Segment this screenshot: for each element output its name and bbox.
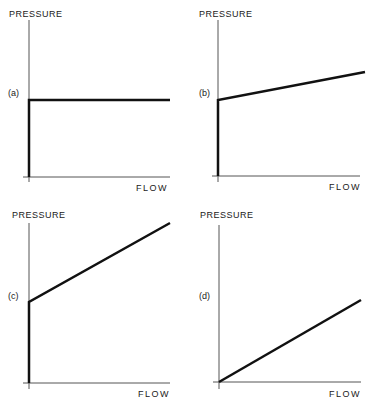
panel-d-xlabel: FLOW [329, 389, 361, 399]
panel-d [213, 225, 361, 389]
panel-d-ylabel: PRESSURE [200, 210, 254, 220]
panel-b-xlabel: FLOW [329, 182, 361, 192]
panel-b-ylabel: PRESSURE [199, 9, 253, 19]
panel-d-tag: (d) [199, 291, 210, 301]
curve-d [219, 300, 361, 382]
panel-c [23, 223, 170, 389]
curve-a [29, 100, 170, 177]
curve-b [218, 72, 365, 176]
curve-c [29, 223, 170, 383]
panel-a-xlabel: FLOW [136, 183, 168, 193]
panel-c-ylabel: PRESSURE [12, 210, 66, 220]
panel-b-tag: (b) [199, 88, 210, 98]
panel-a-tag: (a) [8, 88, 19, 98]
panel-a-ylabel: PRESSURE [9, 9, 63, 19]
chart-canvas [0, 0, 372, 406]
panel-b [212, 20, 365, 182]
panel-a [23, 20, 170, 182]
panel-c-tag: (c) [8, 291, 19, 301]
panel-c-xlabel: FLOW [138, 389, 170, 399]
